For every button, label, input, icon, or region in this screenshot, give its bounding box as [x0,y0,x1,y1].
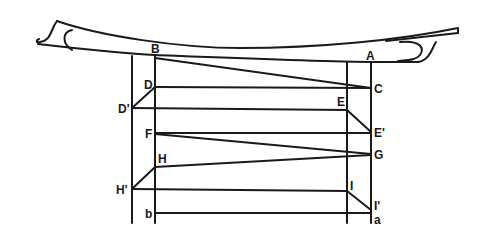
label-G: G [374,148,383,162]
brace-H-Hp [132,167,155,189]
brace-B-C [155,58,371,88]
posts [132,55,371,223]
brace-D-C [155,87,371,88]
brace-F-G [155,134,371,154]
label-H-prime: H' [116,183,128,197]
label-H: H [158,152,167,166]
brace-I-Ip [347,191,371,210]
brace-Hp-I [132,189,347,191]
label-B: B [151,42,160,56]
brace-Dp-E [132,108,347,110]
label-I-prime: I' [374,199,380,213]
roof-bracing-diagram: B A C D D' E E' F G H H' I I' b a [0,0,487,242]
label-F: F [145,127,152,141]
label-a: a [374,213,381,227]
label-E: E [337,95,345,109]
bracing [132,58,371,213]
label-D-prime: D' [118,102,130,116]
label-I: I [350,179,353,193]
brace-H-G [155,155,371,167]
label-A: A [366,49,375,63]
label-b: b [145,207,152,221]
label-D: D [144,78,153,92]
roof-beam [37,21,458,62]
label-E-prime: E' [374,126,385,140]
brace-E-Ep [347,110,371,132]
label-C: C [374,82,383,96]
